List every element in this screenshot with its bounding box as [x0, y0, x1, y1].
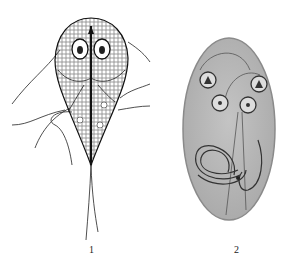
- illustration-canvas: [0, 0, 284, 261]
- panel-label-2: 2: [234, 244, 239, 255]
- panel-label-1: 1: [89, 244, 94, 255]
- cyst-drawing: [183, 38, 275, 220]
- trophozoite-drawing: [12, 18, 150, 240]
- figure: 1 2: [0, 0, 284, 261]
